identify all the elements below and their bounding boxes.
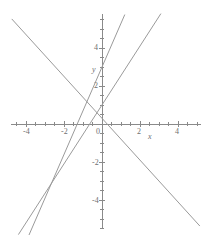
- line-descending: [12, 19, 200, 226]
- y-tick-label-neg4: -4: [92, 197, 99, 205]
- x-tick-label-4: 4: [175, 128, 179, 136]
- y-tick-label-4: 4: [94, 44, 98, 52]
- x-axis-label: x: [148, 133, 152, 141]
- y-tick-label-neg2: -2: [92, 159, 99, 167]
- x-tick-label-zero: 0: [96, 128, 100, 136]
- x-tick-label-neg4: -4: [23, 128, 30, 136]
- chart-canvas: [0, 0, 212, 235]
- x-tick-label-2: 2: [137, 128, 141, 136]
- x-tick-label-neg2: -2: [61, 128, 68, 136]
- line-steep-ascending: [29, 15, 125, 235]
- y-axis-label: y: [92, 66, 96, 74]
- coordinate-plane-chart: -4 -2 0 2 4 4 2 -2 -4 y x: [0, 0, 212, 235]
- y-tick-label-2: 2: [94, 82, 98, 90]
